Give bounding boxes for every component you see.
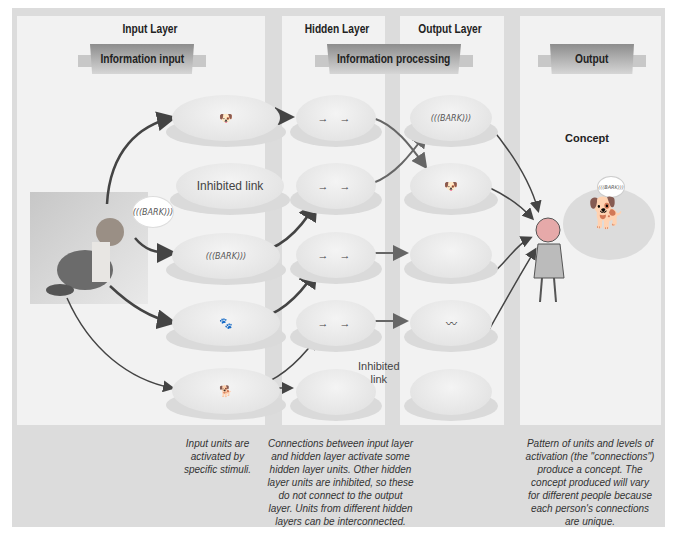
output-unit-bark: (((BARK)))	[410, 95, 492, 147]
caption-line: do not connect to the output	[258, 489, 423, 502]
concept-title: Concept	[565, 132, 609, 144]
inhibited-line-1: Inhibited	[358, 360, 400, 373]
caption-line: layers can be interconnected.	[258, 515, 423, 528]
dog-face-icon: 🐶	[410, 163, 492, 209]
inhibited-link-label: Inhibited link	[176, 163, 284, 209]
output-caption: Pattern of units and levels of activatio…	[520, 437, 660, 528]
arrows-icon: → →	[296, 232, 376, 278]
caption-line: for different people because	[520, 489, 660, 502]
input-unit-inhibited: Inhibited link	[176, 163, 284, 215]
bark-text: (((BARK)))	[598, 184, 623, 190]
inhibited-link-label-2: Inhibited link	[358, 360, 400, 386]
output-unit-face: 🐶	[410, 163, 492, 215]
hidden-unit-4: → →	[296, 300, 376, 352]
input-caption: Input units are activated by specific st…	[175, 437, 260, 476]
output-unit-tail: 〰	[410, 300, 492, 352]
bark-text: (((BARK)))	[206, 252, 247, 261]
hidden-unit-2: → →	[296, 163, 376, 215]
input-unit-bark: (((BARK)))	[172, 233, 280, 285]
caption-line: specific stimuli.	[175, 463, 260, 476]
arrows-icon: → →	[296, 95, 376, 141]
arrows-icon: → →	[296, 300, 376, 346]
caption-line: produce a concept. The	[520, 463, 660, 476]
caption-line: activation (the "connections")	[520, 450, 660, 463]
output-unit-chest	[410, 232, 492, 284]
input-unit-legs: 🐾	[172, 300, 280, 352]
bark-text: (((BARK)))	[431, 114, 472, 123]
dog-legs-icon: 🐾	[172, 300, 280, 346]
caption-line: concept produced will vary	[520, 476, 660, 489]
caption-line: layer. Units from different hidden	[258, 502, 423, 515]
hidden-unit-3: → →	[296, 232, 376, 284]
caption-line: hidden layer units. Other hidden	[258, 463, 423, 476]
arrows-icon: → →	[296, 163, 376, 209]
inhibited-line-2: link	[358, 373, 400, 386]
output-unit-empty	[410, 369, 492, 421]
girl-thinking-icon	[520, 210, 580, 310]
dog-tail-icon: 〰	[410, 300, 492, 346]
input-unit-body: 🐕	[172, 368, 280, 420]
caption-line: Connections between input layer	[258, 437, 423, 450]
caption-line: activated by	[175, 450, 260, 463]
caption-line: layer units are inhibited, so these	[258, 476, 423, 489]
caption-line: each person's connections	[520, 502, 660, 515]
caption-line: Pattern of units and levels of	[520, 437, 660, 450]
caption-line: are unique.	[520, 515, 660, 528]
dog-chest-icon	[410, 232, 492, 278]
hidden-caption: Connections between input layer and hidd…	[258, 437, 423, 528]
caption-line: and hidden layer activate some	[258, 450, 423, 463]
input-unit-head: 🐶	[172, 95, 280, 147]
dog-body-icon: 🐕	[172, 368, 280, 414]
hidden-unit-1: → →	[296, 95, 376, 147]
concept-dog-icon: 🐕	[588, 195, 625, 230]
caption-line: Input units are	[175, 437, 260, 450]
dog-head-icon: 🐶	[172, 95, 280, 141]
